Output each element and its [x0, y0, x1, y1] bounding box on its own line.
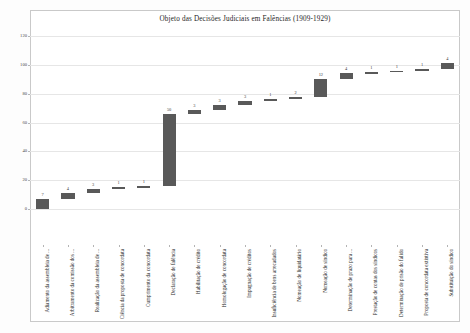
- bar[interactable]: [390, 71, 403, 73]
- x-tick-mark: [245, 245, 246, 247]
- x-tick-mark: [169, 245, 170, 247]
- x-category-label: Nomeação de liquidatário: [297, 249, 302, 302]
- bar-value-label: 2: [283, 91, 308, 95]
- x-tick-mark: [194, 245, 195, 247]
- x-tick-mark: [119, 245, 120, 247]
- x-category-label: Cumprimento da concordata: [146, 249, 151, 307]
- gridline-y: [30, 123, 460, 124]
- x-tick-mark: [93, 245, 94, 247]
- x-tick-mark: [321, 245, 322, 247]
- bar[interactable]: [163, 114, 176, 186]
- gridline-y: [30, 180, 460, 181]
- x-category-label: Determinação de prisão do falido: [399, 249, 404, 317]
- y-tick-mark: [28, 94, 30, 95]
- x-category-label: Prestação de contas dos síndicos: [373, 249, 378, 315]
- bar[interactable]: [314, 79, 327, 96]
- x-tick-mark: [346, 245, 347, 247]
- x-category-label: Declaração de falência: [171, 249, 176, 295]
- bar[interactable]: [441, 63, 454, 69]
- y-tick-mark: [28, 180, 30, 181]
- bar-value-label: 7: [30, 193, 55, 197]
- bar[interactable]: [238, 101, 251, 105]
- y-tick-label: 80: [22, 91, 27, 96]
- bar[interactable]: [289, 97, 302, 100]
- y-tick-mark: [28, 123, 30, 124]
- bar-value-label: 1: [384, 65, 409, 69]
- y-tick-label: 0: [25, 207, 27, 212]
- x-category-label: Ciência da proposta de concordata: [120, 249, 125, 319]
- bar[interactable]: [213, 105, 226, 109]
- bar-value-label: 1: [106, 181, 131, 185]
- gridline-y: [30, 36, 460, 37]
- bar-value-label: 3: [81, 183, 106, 187]
- x-tick-mark: [371, 245, 372, 247]
- x-category-label: Proposta de concordata extintiva: [424, 249, 429, 316]
- bar-value-label: 1: [258, 93, 283, 97]
- x-tick-mark: [447, 245, 448, 247]
- x-tick-mark: [397, 245, 398, 247]
- x-category-label: Adiamento da assembleia de ...: [45, 249, 50, 313]
- bar-value-label: 50: [156, 108, 181, 112]
- x-category-label: Nomeação de síndico: [323, 249, 328, 293]
- x-category-label: Substituição do síndico: [449, 249, 454, 297]
- x-tick-mark: [270, 245, 271, 247]
- bar[interactable]: [87, 189, 100, 193]
- x-tick-mark: [220, 245, 221, 247]
- plot-area: 0204060801001207Adiamento da assembleia …: [30, 36, 460, 209]
- x-tick-mark: [68, 245, 69, 247]
- y-tick-label: 40: [22, 149, 27, 154]
- y-tick-label: 20: [22, 178, 27, 183]
- bar[interactable]: [188, 110, 201, 114]
- bar-value-label: 3: [207, 99, 232, 103]
- y-tick-mark: [28, 65, 30, 66]
- x-category-label: Impugnação de créditos: [247, 249, 252, 298]
- x-tick-mark: [43, 245, 44, 247]
- y-tick-label: 100: [20, 63, 27, 68]
- bar-value-label: 3: [232, 95, 257, 99]
- gridline-y: [30, 151, 460, 152]
- x-tick-mark: [296, 245, 297, 247]
- bar-value-label: 1: [409, 63, 434, 67]
- y-tick-label: 120: [20, 34, 27, 39]
- x-tick-mark: [144, 245, 145, 247]
- x-category-label: Determinação de prazo para ...: [348, 249, 353, 311]
- bar-value-label: 4: [55, 187, 80, 191]
- y-tick-mark: [28, 151, 30, 152]
- bar-value-label: 1: [359, 66, 384, 70]
- bar[interactable]: [264, 99, 277, 101]
- x-category-label: Habilitação de crédito: [196, 249, 201, 294]
- bar-value-label: 1: [131, 180, 156, 184]
- chart-title: Objeto das Decisões Judiciais em Falênci…: [30, 15, 460, 23]
- y-tick-mark: [28, 209, 30, 210]
- bar-value-label: 3: [182, 104, 207, 108]
- bar[interactable]: [36, 199, 49, 209]
- bar-value-label: 4: [334, 67, 359, 71]
- x-category-label: Homologação de concordata: [222, 249, 227, 307]
- x-category-label: Arbitramento da comissão dos ...: [70, 249, 75, 316]
- bar-value-label: 12: [308, 73, 333, 77]
- bar[interactable]: [340, 73, 353, 79]
- x-tick-mark: [422, 245, 423, 247]
- bar[interactable]: [365, 72, 378, 74]
- figure-canvas: Objeto das Decisões Judiciais em Falênci…: [0, 0, 470, 333]
- x-category-label: Realização da assembleia de ...: [95, 249, 100, 312]
- gridline-y: [30, 209, 460, 210]
- y-tick-label: 60: [22, 120, 27, 125]
- y-tick-mark: [28, 36, 30, 37]
- bar[interactable]: [61, 193, 74, 199]
- bar-value-label: 4: [435, 57, 460, 61]
- bar[interactable]: [415, 69, 428, 71]
- bar[interactable]: [137, 186, 150, 188]
- x-category-label: Insuficiência de bens arrecadados: [272, 249, 277, 318]
- bar[interactable]: [112, 187, 125, 189]
